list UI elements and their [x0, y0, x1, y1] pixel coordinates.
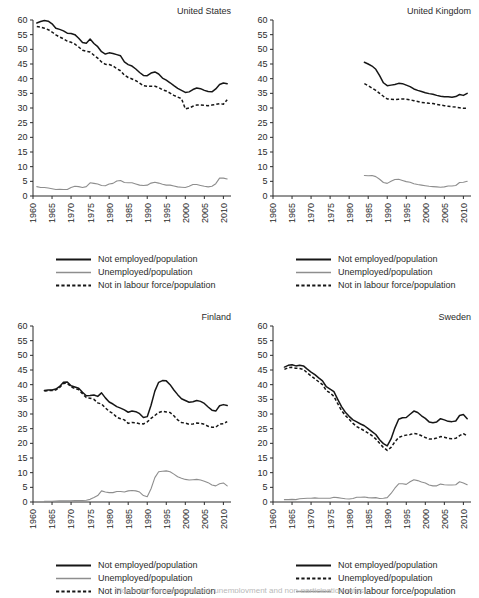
x-tick-label: 1995	[162, 203, 172, 223]
x-tick-label: 1980	[105, 509, 115, 529]
panel-united-states: United States051015202530354045505560196…	[0, 0, 240, 287]
legend-item: Not employed/population	[55, 559, 216, 572]
y-tick-label: 55	[17, 336, 27, 346]
panel-sweden: Sweden0510152025303540455055601960196519…	[240, 306, 479, 593]
x-tick-label: 1995	[402, 509, 412, 529]
y-tick-label: 30	[17, 409, 27, 419]
legend-item: Not employed/population	[55, 253, 216, 266]
series-line-solid	[44, 381, 227, 418]
x-tick-label: 1985	[124, 509, 134, 529]
y-tick-label: 40	[17, 74, 27, 84]
legend-key-dotted-icon	[55, 279, 93, 292]
x-tick-label: 2005	[440, 203, 450, 223]
y-tick-label: 45	[17, 365, 27, 375]
x-tick-label: 2000	[421, 509, 431, 529]
y-tick-label: 15	[257, 453, 267, 463]
x-tick-label: 1960	[268, 509, 278, 529]
x-tick-label: 2005	[440, 509, 450, 529]
y-tick-label: 45	[257, 365, 267, 375]
y-tick-label: 60	[17, 321, 27, 331]
x-tick-label: 2010	[219, 203, 229, 223]
y-tick-label: 35	[17, 88, 27, 98]
x-tick-label: 1980	[105, 203, 115, 223]
y-tick-label: 35	[257, 88, 267, 98]
y-tick-label: 45	[17, 59, 27, 69]
x-tick-label: 1990	[383, 203, 393, 223]
legend-item: Unemployed/population	[295, 266, 456, 279]
x-tick-label: 1975	[86, 203, 96, 223]
series-line-grey	[364, 175, 467, 187]
x-tick-label: 1975	[86, 509, 96, 529]
series-line-dotted	[37, 26, 227, 108]
plot-area: 0510152025303540455055601960196519701975…	[240, 0, 479, 240]
legend-label: Not employed/population	[93, 253, 198, 266]
y-tick-label: 20	[257, 438, 267, 448]
y-tick-label: 0	[262, 191, 267, 201]
x-tick-label: 1965	[47, 509, 57, 529]
y-tick-label: 30	[257, 103, 267, 113]
y-tick-label: 15	[257, 147, 267, 157]
legend-item: Unemployed/population	[295, 572, 456, 585]
x-tick-label: 2000	[181, 203, 191, 223]
x-tick-label: 1970	[66, 509, 76, 529]
legend: Not employed/populationUnemployed/popula…	[55, 253, 216, 292]
legend-key-solid-icon	[55, 253, 93, 266]
series-line-grey	[37, 178, 227, 189]
legend-item: Not in labour force/population	[295, 279, 456, 292]
x-tick-label: 1985	[124, 203, 134, 223]
y-tick-label: 55	[257, 336, 267, 346]
figure-caption-partial: Figure 3. Non-employment, unemployment a…	[0, 586, 479, 593]
y-tick-label: 55	[257, 30, 267, 40]
legend-key-dotted-icon	[295, 279, 333, 292]
series-line-solid	[284, 365, 467, 446]
series-line-dotted	[44, 383, 227, 427]
y-tick-label: 25	[257, 118, 267, 128]
y-tick-label: 30	[257, 409, 267, 419]
legend-label: Not employed/population	[333, 559, 438, 572]
legend-key-solid-icon	[55, 559, 93, 572]
x-tick-label: 2010	[219, 509, 229, 529]
x-tick-label: 1970	[306, 509, 316, 529]
x-tick-label: 1990	[143, 203, 153, 223]
legend-key-grey-icon	[55, 266, 93, 279]
x-tick-label: 2000	[181, 509, 191, 529]
y-tick-label: 40	[17, 380, 27, 390]
legend-key-grey-icon	[295, 266, 333, 279]
series-line-grey	[284, 480, 467, 500]
y-tick-label: 15	[17, 453, 27, 463]
x-tick-label: 1960	[268, 203, 278, 223]
y-tick-label: 25	[17, 424, 27, 434]
y-tick-label: 10	[17, 162, 27, 172]
series-line-solid	[364, 62, 467, 97]
y-tick-label: 5	[22, 482, 27, 492]
y-tick-label: 50	[257, 350, 267, 360]
y-tick-label: 35	[257, 394, 267, 404]
series-line-dotted	[284, 367, 467, 450]
y-tick-label: 20	[17, 438, 27, 448]
legend-key-dotted-icon	[295, 572, 333, 585]
legend-label: Not in labour force/population	[93, 279, 216, 292]
x-tick-label: 2000	[421, 203, 431, 223]
panel-finland: Finland051015202530354045505560196019651…	[0, 306, 240, 593]
y-tick-label: 60	[257, 321, 267, 331]
x-tick-label: 1985	[364, 509, 374, 529]
legend-label: Unemployed/population	[333, 266, 433, 279]
x-tick-label: 1970	[306, 203, 316, 223]
legend-label: Unemployed/population	[333, 572, 433, 585]
legend-item: Unemployed/population	[55, 266, 216, 279]
legend-item: Unemployed/population	[55, 572, 216, 585]
x-tick-label: 1990	[143, 509, 153, 529]
legend-label: Not employed/population	[333, 253, 438, 266]
y-tick-label: 0	[22, 497, 27, 507]
y-tick-label: 50	[17, 44, 27, 54]
x-tick-label: 1970	[66, 203, 76, 223]
panel-united-kingdom: United Kingdom05101520253035404550556019…	[240, 0, 479, 287]
y-tick-label: 25	[257, 424, 267, 434]
x-tick-label: 1980	[345, 203, 355, 223]
y-tick-label: 35	[17, 394, 27, 404]
x-tick-label: 1980	[345, 509, 355, 529]
x-tick-label: 1960	[28, 509, 38, 529]
y-tick-label: 55	[17, 30, 27, 40]
y-tick-label: 20	[257, 132, 267, 142]
